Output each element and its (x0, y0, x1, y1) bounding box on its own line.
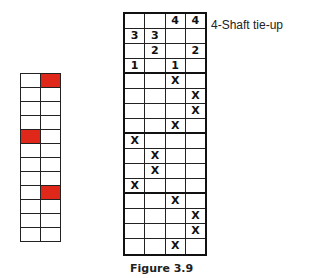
empty-cell (166, 29, 186, 43)
empty-cell (41, 214, 61, 228)
empty-cell (21, 186, 41, 200)
shaft-number-cell: 2 (145, 44, 165, 58)
empty-cell (166, 104, 186, 118)
empty-cell (145, 239, 165, 254)
empty-cell (125, 209, 145, 223)
empty-cell (186, 74, 205, 88)
threading-row: X (125, 164, 205, 179)
empty-cell (166, 44, 186, 58)
empty-cell (166, 209, 186, 223)
left-grid-row (21, 74, 61, 88)
empty-cell (125, 224, 145, 238)
empty-cell (145, 209, 165, 223)
threading-row: X (125, 179, 205, 194)
empty-cell (41, 200, 61, 214)
shaft-number-cell: 1 (125, 59, 145, 72)
empty-cell (21, 228, 41, 242)
filled-cell (41, 74, 61, 88)
left-grid-row (21, 214, 61, 228)
empty-cell (125, 164, 145, 178)
x-mark-cell: X (166, 74, 186, 88)
x-mark-cell: X (145, 149, 165, 163)
empty-cell (41, 116, 61, 130)
empty-cell (125, 119, 145, 132)
left-grid-row (21, 172, 61, 186)
threading-row: X (125, 209, 205, 224)
filled-cell (21, 130, 41, 144)
empty-cell (186, 134, 205, 148)
empty-cell (41, 144, 61, 158)
threading-row: X (125, 239, 205, 254)
empty-cell (21, 158, 41, 172)
threading-row: X (125, 119, 205, 134)
tieup-row: 33 (125, 29, 205, 44)
left-grid-row (21, 200, 61, 214)
empty-cell (145, 14, 165, 28)
threading-row: X (125, 89, 205, 104)
x-mark-cell: X (166, 194, 186, 208)
empty-cell (166, 149, 186, 163)
x-mark-cell: X (186, 89, 205, 103)
threading-row: X (125, 134, 205, 149)
left-grid-row (21, 102, 61, 116)
treadling-color-grid (20, 73, 61, 242)
empty-cell (186, 149, 205, 163)
x-mark-cell: X (166, 119, 186, 132)
shaft-number-cell: 4 (166, 14, 186, 28)
empty-cell (166, 224, 186, 238)
empty-cell (145, 119, 165, 132)
empty-cell (166, 179, 186, 192)
x-mark-cell: X (125, 134, 145, 148)
empty-cell (41, 172, 61, 186)
empty-cell (21, 200, 41, 214)
empty-cell (145, 104, 165, 118)
threading-row: X (125, 149, 205, 164)
left-grid-row (21, 130, 61, 144)
empty-cell (145, 194, 165, 208)
x-mark-cell: X (145, 164, 165, 178)
left-grid-row (21, 186, 61, 200)
threading-row: X (125, 74, 205, 89)
tieup-label: 4-Shaft tie-up (211, 18, 283, 32)
shaft-number-cell: 2 (186, 44, 205, 58)
empty-cell (145, 224, 165, 238)
left-grid-row (21, 158, 61, 172)
shaft-number-cell: 3 (145, 29, 165, 43)
empty-cell (145, 179, 165, 192)
x-mark-cell: X (186, 209, 205, 223)
empty-cell (186, 164, 205, 178)
empty-cell (145, 89, 165, 103)
empty-cell (125, 149, 145, 163)
figure-caption: Figure 3.9 (130, 262, 193, 275)
empty-cell (166, 89, 186, 103)
empty-cell (145, 134, 165, 148)
empty-cell (166, 164, 186, 178)
threading-row: X (125, 194, 205, 209)
empty-cell (125, 89, 145, 103)
empty-cell (125, 194, 145, 208)
empty-cell (186, 59, 205, 72)
empty-cell (21, 102, 41, 116)
empty-cell (166, 134, 186, 148)
empty-cell (186, 119, 205, 132)
x-mark-cell: X (166, 239, 186, 254)
empty-cell (145, 59, 165, 72)
empty-cell (125, 14, 145, 28)
empty-cell (145, 74, 165, 88)
empty-cell (21, 144, 41, 158)
empty-cell (21, 172, 41, 186)
left-grid-row (21, 228, 61, 242)
empty-cell (41, 102, 61, 116)
shaft-number-cell: 4 (186, 14, 205, 28)
left-grid-row (21, 144, 61, 158)
left-grid-row (21, 116, 61, 130)
empty-cell (41, 228, 61, 242)
empty-cell (41, 158, 61, 172)
empty-cell (125, 74, 145, 88)
empty-cell (21, 74, 41, 88)
threading-row: X (125, 104, 205, 119)
empty-cell (41, 130, 61, 144)
empty-cell (21, 214, 41, 228)
empty-cell (21, 116, 41, 130)
tieup-threading-grid: 44332211XXXXXXXXXXXX (123, 12, 207, 256)
